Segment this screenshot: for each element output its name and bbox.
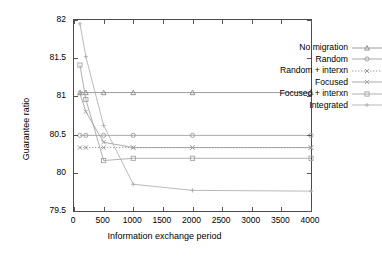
x-axis-tick bbox=[222, 207, 223, 211]
legend-swatch bbox=[352, 43, 382, 53]
legend-swatch bbox=[352, 89, 382, 99]
y-axis-tick-label: 81.5 bbox=[0, 52, 66, 62]
x-axis-tick-top bbox=[133, 20, 134, 24]
y-axis-tick bbox=[74, 173, 78, 174]
legend-item-focused: Focused bbox=[242, 77, 382, 89]
y-axis-tick bbox=[74, 135, 78, 136]
x-axis-tick bbox=[104, 207, 105, 211]
x-axis-tick-top bbox=[193, 20, 194, 24]
legend-label: Focused + interxn bbox=[279, 88, 348, 99]
data-point-plus bbox=[190, 188, 194, 192]
legend-label: Focused bbox=[315, 77, 348, 88]
x-axis-tick bbox=[163, 207, 164, 211]
legend-label: Random + interxn bbox=[280, 65, 348, 76]
y-axis-tick bbox=[74, 58, 78, 59]
y-axis-tick-label: 80 bbox=[0, 167, 66, 177]
x-axis-tick-top bbox=[252, 20, 253, 24]
y-axis-tick-label: 82 bbox=[0, 14, 66, 24]
legend-item-integrated: Integrated bbox=[242, 100, 382, 112]
y-axis-tick-label: 79.5 bbox=[0, 205, 66, 215]
data-point-cross bbox=[365, 69, 369, 73]
x-axis-tick-label: 0 bbox=[71, 215, 76, 225]
y-axis-tick bbox=[74, 211, 78, 212]
legend-swatch bbox=[352, 66, 382, 76]
data-point-cross bbox=[78, 145, 82, 149]
legend-item-focused-interxn: Focused + interxn bbox=[242, 88, 382, 100]
x-axis-tick-top bbox=[163, 20, 164, 24]
x-axis-tick-top bbox=[222, 20, 223, 24]
x-axis-tick-top bbox=[104, 20, 105, 24]
data-point-plus bbox=[309, 189, 313, 193]
data-point-cross bbox=[84, 110, 88, 114]
legend-label: No migration bbox=[299, 42, 348, 53]
x-axis-title: Information exchange period bbox=[0, 231, 329, 241]
y-axis-tick bbox=[74, 20, 78, 21]
y-axis-tick-right bbox=[307, 173, 311, 174]
x-axis-tick-label: 3500 bbox=[271, 215, 290, 225]
chart-legend: No migrationRandomRandom + interxnFocuse… bbox=[242, 42, 382, 111]
data-point-plus bbox=[102, 123, 106, 127]
x-axis-tick bbox=[281, 207, 282, 211]
data-point-plus bbox=[131, 182, 135, 186]
legend-item-random-interxn: Random + interxn bbox=[242, 65, 382, 77]
x-axis-tick-label: 3000 bbox=[241, 215, 260, 225]
x-axis-tick-label: 500 bbox=[96, 215, 110, 225]
legend-item-random: Random bbox=[242, 54, 382, 66]
legend-swatch bbox=[352, 54, 382, 64]
legend-label: Integrated bbox=[309, 100, 348, 111]
x-axis-tick bbox=[133, 207, 134, 211]
data-point-plus bbox=[78, 22, 82, 26]
x-axis-tick bbox=[252, 207, 253, 211]
plot-area: No migrationRandomRandom + interxnFocuse… bbox=[73, 19, 312, 212]
x-axis-tick-label: 1000 bbox=[123, 215, 142, 225]
legend-label: Random bbox=[316, 54, 348, 65]
y-axis-tick-label: 80.5 bbox=[0, 129, 66, 139]
data-point-plus bbox=[84, 55, 88, 59]
x-axis-tick bbox=[311, 207, 312, 211]
legend-swatch bbox=[352, 77, 382, 87]
y-axis-tick-right bbox=[307, 135, 311, 136]
x-axis-tick-top bbox=[311, 20, 312, 24]
legend-swatch bbox=[352, 100, 382, 110]
legend-item-no-migration: No migration bbox=[242, 42, 382, 54]
x-axis-tick-top bbox=[281, 20, 282, 24]
y-axis-tick-label: 81 bbox=[0, 90, 66, 100]
series-1 bbox=[78, 133, 313, 137]
y-axis-tick-right bbox=[307, 211, 311, 212]
data-point-plus bbox=[365, 103, 369, 107]
x-axis-tick-label: 4000 bbox=[301, 215, 320, 225]
y-axis-tick bbox=[74, 96, 78, 97]
x-axis-tick-label: 1500 bbox=[152, 215, 171, 225]
x-axis-tick-label: 2000 bbox=[182, 215, 201, 225]
x-axis-tick bbox=[193, 207, 194, 211]
y-axis-tick-right bbox=[307, 20, 311, 21]
x-axis-tick-label: 2500 bbox=[212, 215, 231, 225]
